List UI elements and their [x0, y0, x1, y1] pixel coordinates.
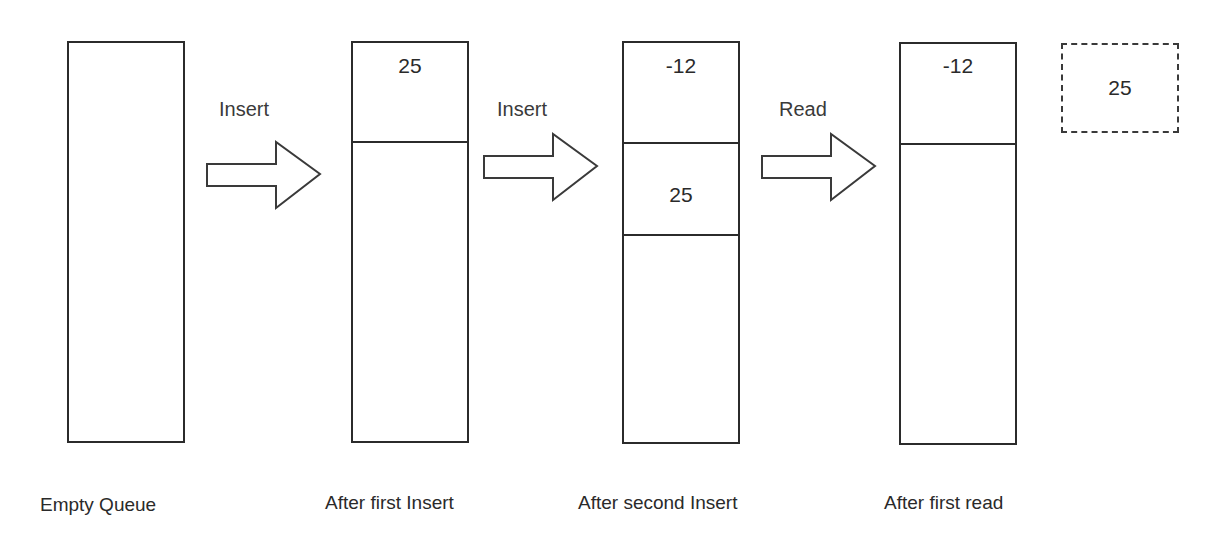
queue-cell: -12: [901, 48, 1015, 84]
queue-cell: 25: [624, 177, 738, 213]
cell-divider: [624, 142, 738, 144]
right-arrow-icon: [204, 139, 324, 213]
queue-cell: 25: [353, 48, 467, 84]
caption-empty-queue: Empty Queue: [40, 494, 156, 516]
queue-after-first-insert: 25: [351, 41, 469, 443]
caption-after-second-insert: After second Insert: [578, 492, 737, 514]
operation-label-read: Read: [779, 98, 827, 121]
queue-after-first-read: -12: [899, 42, 1017, 445]
caption-after-first-read: After first read: [884, 492, 1003, 514]
right-arrow-icon: [481, 131, 601, 205]
right-arrow-icon: [759, 131, 879, 205]
read-output-box: 25: [1061, 43, 1179, 133]
queue-empty: [67, 41, 185, 443]
operation-label-insert-1: Insert: [219, 98, 269, 121]
read-output-value: 25: [1063, 70, 1177, 106]
caption-after-first-insert: After first Insert: [325, 492, 454, 514]
queue-after-second-insert: -12 25: [622, 41, 740, 444]
cell-divider: [624, 234, 738, 236]
operation-label-insert-2: Insert: [497, 98, 547, 121]
cell-divider: [901, 143, 1015, 145]
queue-cell: -12: [624, 48, 738, 84]
cell-divider: [353, 141, 467, 143]
